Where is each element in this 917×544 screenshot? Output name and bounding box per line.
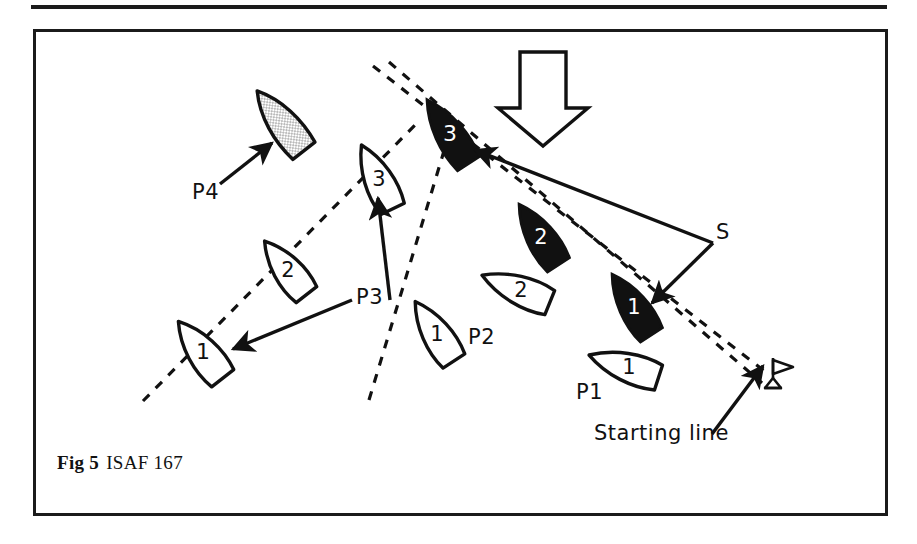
label-s: S	[716, 220, 730, 244]
label-p2: P2	[468, 325, 495, 349]
label-p4: P4	[192, 180, 219, 204]
figure-caption: Fig 5ISAF 167	[57, 452, 183, 474]
figure-frame-border	[33, 29, 888, 516]
caption-reference: ISAF 167	[106, 452, 183, 473]
label-starting-line: Starting line	[594, 421, 729, 445]
figure-page: 1 2 3 1 2 1 1 2	[0, 0, 917, 544]
page-top-rule	[31, 5, 887, 9]
label-p3: P3	[356, 285, 383, 309]
label-p1: P1	[576, 380, 603, 404]
caption-figure-number: Fig 5	[57, 452, 99, 473]
